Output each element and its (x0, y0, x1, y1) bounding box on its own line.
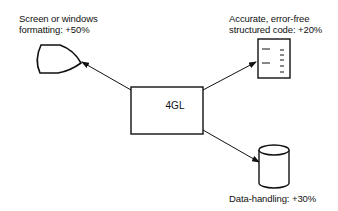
code-label: Accurate, error-free structured code: +2… (229, 13, 322, 35)
code-label-line1: Accurate, error-free (229, 13, 322, 24)
database-icon (259, 145, 289, 188)
document-icon (258, 39, 290, 78)
data-label: Data-handling: +30% (229, 193, 316, 204)
arrow-to-data (203, 130, 259, 162)
code-label-line2: structured code: +20% (229, 24, 322, 35)
4gl-label: 4GL (140, 100, 210, 111)
screen-label: Screen or windows formatting: +50% (19, 13, 98, 35)
screen-label-line2: formatting: +50% (19, 24, 98, 35)
data-label-line1: Data-handling: +30% (229, 193, 316, 204)
screen-label-line1: Screen or windows (19, 13, 98, 24)
arrow-to-screen (82, 62, 131, 90)
display-icon (37, 45, 81, 73)
arrow-to-code (203, 62, 256, 90)
